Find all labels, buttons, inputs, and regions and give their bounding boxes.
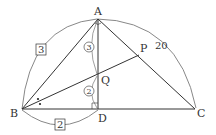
box-2-value: 2 (57, 119, 63, 130)
diagram-canvas: A B C D P Q 3 2 3 2 20 (0, 0, 216, 135)
length-20-label: 20 (155, 40, 168, 51)
angle-dot-1 (37, 98, 39, 100)
label-c: C (197, 107, 205, 120)
label-p: P (140, 42, 148, 55)
label-a: A (93, 5, 103, 18)
label-b: B (10, 107, 18, 120)
box-3-value: 3 (38, 44, 44, 55)
circle-2-value: 2 (87, 87, 92, 96)
segment-bp (22, 55, 139, 109)
label-q: Q (101, 74, 110, 87)
angle-dot-2 (39, 103, 41, 105)
circle-3-value: 3 (87, 43, 92, 52)
right-angle-mark (92, 103, 98, 109)
geometry-diagram: A B C D P Q 3 2 3 2 20 (0, 0, 216, 135)
label-d: D (98, 112, 107, 125)
